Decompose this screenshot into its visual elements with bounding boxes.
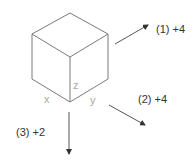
step-1-label: (1) +4 <box>156 24 185 35</box>
axis-label-x: x <box>44 94 50 105</box>
arrow-step-1-icon <box>115 25 148 44</box>
cube-top-face <box>32 13 108 57</box>
axis-label-y: y <box>90 95 96 106</box>
step-3-label: (3) +2 <box>16 127 45 138</box>
axis-label-z: z <box>73 80 79 91</box>
arrow-step-2-icon <box>109 105 145 125</box>
cube-edge-bottom-left <box>32 79 70 102</box>
cube-rotation-diagram: z x y (1) +4 (2) +4 (3) +2 <box>0 0 194 163</box>
cube <box>32 13 108 102</box>
step-2-label: (2) +4 <box>138 94 167 105</box>
